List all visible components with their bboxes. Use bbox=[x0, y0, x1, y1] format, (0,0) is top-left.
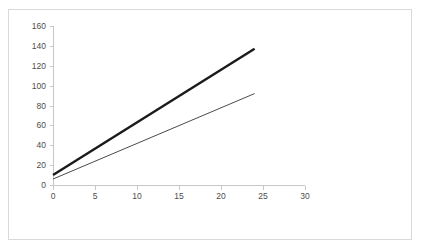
y-axis-tick-label: 160 bbox=[32, 21, 46, 31]
line-chart-plot: 020406080100120140160 051015202530 bbox=[0, 0, 421, 251]
y-axis-tick-label: 60 bbox=[37, 120, 47, 130]
x-axis-group bbox=[53, 186, 306, 190]
x-axis-tick-label: 0 bbox=[51, 191, 56, 201]
x-axis-tick-label: 25 bbox=[258, 191, 268, 201]
x-axis-tick-label: 5 bbox=[93, 191, 98, 201]
y-axis-tick-label: 40 bbox=[37, 140, 47, 150]
data-series-group bbox=[53, 49, 255, 179]
y-axis-tick-label: 80 bbox=[37, 101, 47, 111]
x-axis-tick-labels: 051015202530 bbox=[51, 191, 310, 201]
y-axis-tick-label: 20 bbox=[37, 160, 47, 170]
data-series-lower-line bbox=[53, 94, 255, 179]
y-axis-group bbox=[50, 26, 54, 186]
y-axis-tick-label: 0 bbox=[41, 180, 46, 190]
x-axis-tick-label: 30 bbox=[300, 191, 310, 201]
x-axis-tick-label: 15 bbox=[174, 191, 184, 201]
x-axis-tick-label: 20 bbox=[216, 191, 226, 201]
y-axis-tick-label: 120 bbox=[32, 61, 46, 71]
y-axis-tick-labels: 020406080100120140160 bbox=[32, 21, 46, 190]
x-axis-tick-label: 10 bbox=[132, 191, 142, 201]
y-axis-tick-label: 100 bbox=[32, 81, 46, 91]
y-axis-tick-label: 140 bbox=[32, 41, 46, 51]
data-series-upper-line bbox=[53, 49, 255, 175]
chart-container: 020406080100120140160 051015202530 bbox=[0, 0, 421, 251]
